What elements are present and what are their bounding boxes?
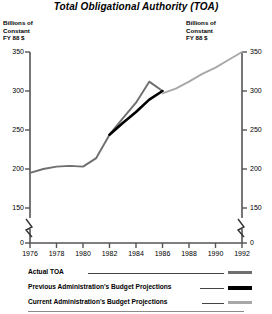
legend-leader-2	[202, 303, 224, 304]
series-layer	[30, 52, 242, 173]
x-tick-label-1986: 1986	[150, 250, 176, 257]
series-line-0	[30, 82, 163, 173]
y-tick-label-left-0: 0	[2, 239, 24, 246]
axes-layer	[25, 52, 247, 248]
y-tick-label-right-300: 300	[250, 87, 272, 94]
legend-label-2: Current Administration's Budget Projecti…	[28, 298, 167, 305]
legend-bottom-rule	[28, 311, 244, 312]
chart-figure: Total Obligational Authority (TOA) Billi…	[0, 0, 272, 314]
legend-swatch-2	[228, 301, 252, 304]
y-tick-label-right-0: 0	[250, 239, 272, 246]
y-axis-break-left	[26, 219, 32, 237]
legend-item-0: Actual TOA	[0, 266, 272, 281]
x-tick-label-1988: 1988	[176, 250, 202, 257]
legend-swatch-1	[228, 286, 252, 290]
x-tick-label-1982: 1982	[97, 250, 123, 257]
legend-swatch-0	[228, 271, 252, 274]
x-tick-label-1976: 1976	[17, 250, 43, 257]
plot-area	[0, 0, 272, 262]
legend-leader-0	[88, 273, 224, 274]
x-tick-label-1984: 1984	[123, 250, 149, 257]
chart-legend: Actual TOAPrevious Administration's Budg…	[0, 266, 272, 311]
series-line-2	[163, 52, 243, 93]
x-tick-label-1990: 1990	[203, 250, 229, 257]
y-tick-label-right-350: 350	[250, 48, 272, 55]
legend-label-0: Actual TOA	[28, 268, 64, 275]
y-tick-label-right-200: 200	[250, 165, 272, 172]
legend-label-1: Previous Administration's Budget Project…	[28, 283, 171, 290]
y-tick-label-left-250: 250	[2, 126, 24, 133]
y-tick-label-left-350: 350	[2, 48, 24, 55]
series-line-1	[110, 91, 163, 135]
y-tick-label-left-200: 200	[2, 165, 24, 172]
x-tick-label-1992: 1992	[229, 250, 255, 257]
x-tick-label-1978: 1978	[44, 250, 70, 257]
y-tick-label-left-300: 300	[2, 87, 24, 94]
x-tick-label-1980: 1980	[70, 250, 96, 257]
legend-item-1: Previous Administration's Budget Project…	[0, 281, 272, 296]
y-axis-break-right	[238, 219, 244, 237]
y-tick-label-right-250: 250	[250, 126, 272, 133]
y-tick-label-left-150: 150	[2, 204, 24, 211]
legend-item-2: Current Administration's Budget Projecti…	[0, 296, 272, 311]
legend-leader-1	[200, 288, 224, 289]
y-tick-label-right-150: 150	[250, 204, 272, 211]
